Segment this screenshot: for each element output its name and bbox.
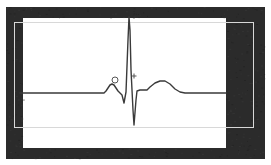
ecg-canvas — [0, 0, 271, 165]
ecg-display-screen: ECG Waveform Trace — [0, 0, 271, 165]
